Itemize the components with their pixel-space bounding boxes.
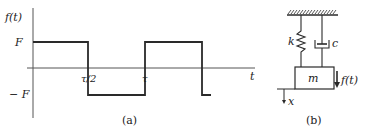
mass-spring-damper: k c m f(t) x (b)	[277, 10, 358, 127]
level-high-label: F	[14, 36, 23, 49]
spring-label: k	[288, 35, 295, 48]
tick-half-period-label: τ/2	[81, 73, 96, 84]
figure-canvas: f(t) F − F τ/2 τ t (a)	[0, 0, 365, 133]
damper-label: c	[332, 37, 338, 50]
mass-label: m	[308, 72, 318, 85]
force-label: f(t)	[340, 74, 358, 87]
square-wave-plot: f(t) F − F τ/2 τ t (a)	[4, 8, 255, 127]
spring	[297, 15, 305, 67]
y-axis-label: f(t)	[4, 11, 22, 24]
level-low-label: − F	[9, 88, 30, 101]
displacement-label: x	[288, 95, 295, 108]
caption-b: (b)	[306, 114, 322, 127]
caption-a: (a)	[122, 114, 137, 127]
ceiling-hatch	[288, 10, 336, 14]
x-axis-label: t	[250, 70, 255, 83]
tick-period-label: τ	[142, 73, 148, 84]
force-arrow-icon	[334, 71, 340, 88]
displacement-arrow-icon	[282, 89, 286, 104]
damper	[315, 15, 329, 67]
